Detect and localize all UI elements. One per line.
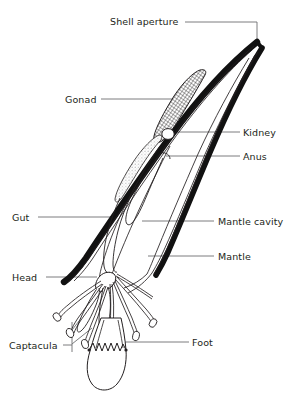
captaculum-6b — [117, 277, 155, 321]
mantle-fold — [124, 274, 147, 288]
label-gut: Gut — [12, 212, 29, 223]
label-gonad: Gonad — [65, 94, 97, 105]
shell-apex — [257, 42, 262, 48]
captaculum-tip-1 — [51, 311, 62, 322]
mantle-cavity-boundary — [147, 58, 249, 274]
diagram-svg — [0, 0, 284, 397]
captaculum-tip-2 — [65, 327, 76, 339]
label-mantle-cavity: Mantle cavity — [218, 216, 283, 227]
visceral-mass — [115, 135, 162, 202]
foot-collar-node-left — [88, 349, 91, 352]
foot-collar-node-right — [124, 348, 127, 351]
mantle-lines — [68, 46, 258, 282]
captaculum-7b — [117, 274, 153, 297]
scaphopod-anatomy-figure: Shell aperture Gonad Kidney Anus Gut Man… — [0, 0, 284, 397]
kidney-organ — [162, 129, 174, 140]
captaculum-6 — [115, 279, 152, 323]
label-head: Head — [12, 272, 37, 283]
label-shell-aperture: Shell aperture — [110, 16, 178, 27]
label-captacula: Captacula — [9, 340, 58, 351]
label-mantle: Mantle — [218, 251, 251, 262]
kidney-shape — [162, 129, 174, 140]
label-foot: Foot — [192, 337, 213, 348]
mantle-line-dorsal-2 — [74, 50, 252, 281]
label-anus: Anus — [243, 151, 267, 162]
captaculum-tip-3 — [81, 339, 90, 350]
captaculum-tip-5 — [132, 331, 141, 342]
shell-outer-wall-dorsal — [64, 42, 257, 282]
shell-outline — [64, 42, 262, 282]
leader-shell-aperture — [185, 22, 257, 40]
label-kidney: Kidney — [243, 127, 276, 138]
